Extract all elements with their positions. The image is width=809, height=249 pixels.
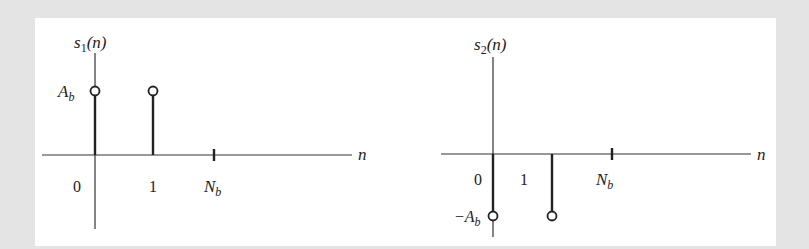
s2-tick-label-0: 0 [474, 171, 482, 188]
s2-tick-label-1: 1 [520, 171, 528, 188]
s2-xlabel: n [757, 145, 766, 164]
s1-tick-label-Nb: Nb [203, 177, 221, 199]
s2-marker-n1 [548, 212, 557, 221]
s1-tick-label-1: 1 [149, 178, 157, 195]
s2-amplitude-label: −Ab [454, 208, 481, 229]
s1-tick-label-0: 0 [73, 178, 81, 195]
plot-s1: s1(n) n Ab 0 1 Nb [42, 33, 367, 229]
s2-marker-n0 [489, 212, 498, 221]
s1-marker-n0 [91, 87, 100, 96]
s1-ylabel: s1(n) [74, 33, 107, 55]
stem-plots-figure: s1(n) n Ab 0 1 Nb s2(n) n [0, 0, 809, 249]
s2-tick-label-Nb: Nb [595, 170, 613, 192]
s1-marker-n1 [149, 87, 158, 96]
plot-s2: s2(n) n −Ab 0 1 Nb [441, 35, 766, 237]
s1-xlabel: n [358, 145, 367, 164]
s2-ylabel: s2(n) [474, 35, 507, 57]
s1-amplitude-label: Ab [57, 82, 74, 104]
